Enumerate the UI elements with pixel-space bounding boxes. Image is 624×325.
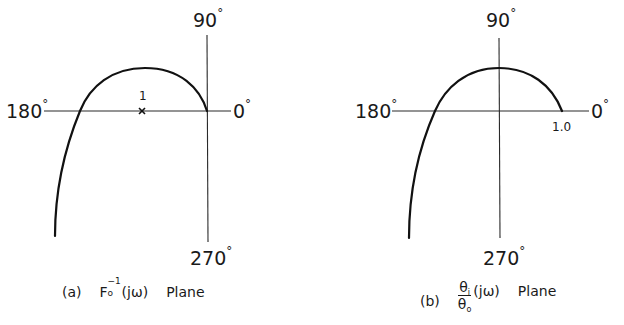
- func-arg: (jω): [473, 283, 500, 299]
- panel-b-caption-tag: (b): [420, 294, 440, 308]
- panel-a-label-180: 180°: [6, 102, 48, 121]
- panel-b-label-270: 270°: [483, 249, 525, 268]
- panel-b-point-label: 1.0: [552, 121, 571, 133]
- panel-b-caption-word: Plane: [518, 284, 556, 298]
- panel-a-label-0: 0°: [233, 102, 251, 121]
- panel-a-plot: [44, 35, 231, 242]
- degree-symbol: °: [42, 97, 48, 111]
- nyquist-figure: [0, 0, 624, 325]
- func-arg: (jω): [122, 284, 149, 300]
- label-value: 180: [6, 100, 42, 122]
- func-scripts: −1o: [108, 287, 122, 297]
- degree-symbol: °: [603, 97, 609, 111]
- label-value: 0: [233, 100, 245, 122]
- panel-a-imag-axis: [207, 35, 208, 242]
- panel-a-caption: (a)F−1o(jω)Plane: [62, 285, 205, 299]
- panel-a-caption-word: Plane: [166, 285, 204, 299]
- func-base: F: [100, 284, 108, 300]
- label-value: 0: [591, 100, 603, 122]
- fraction-numerator: θi: [458, 280, 471, 296]
- label-value: 270: [483, 247, 519, 269]
- func-sup: −1: [108, 277, 121, 286]
- label-value: 270: [190, 247, 226, 269]
- label-value: 180: [355, 100, 391, 122]
- panel-a-caption-func: F−1o(jω): [100, 284, 149, 300]
- panel-a-label-270: 270°: [190, 249, 232, 268]
- degree-symbol: °: [217, 6, 223, 20]
- num-sub: i: [468, 288, 470, 297]
- panel-b-caption-fraction: θiθo: [458, 280, 471, 311]
- panel-a-marker-label: 1: [139, 90, 147, 102]
- panel-b-label-90: 90°: [486, 11, 516, 30]
- panel-b-label-180: 180°: [355, 102, 397, 121]
- degree-symbol: °: [510, 6, 516, 20]
- panel-b-label-0: 0°: [591, 102, 609, 121]
- panel-a-locus-curve: [55, 68, 207, 236]
- degree-symbol: °: [226, 244, 232, 258]
- panel-b-plot: [392, 38, 589, 238]
- func-sub: o: [108, 289, 114, 298]
- den-sub: o: [466, 305, 471, 314]
- label-value: 90: [193, 9, 217, 31]
- degree-symbol: °: [519, 244, 525, 258]
- degree-symbol: °: [245, 97, 251, 111]
- label-value: 90: [486, 9, 510, 31]
- panel-b-locus-curve: [409, 68, 562, 238]
- panel-a-caption-tag: (a): [62, 285, 82, 299]
- fraction-denominator: θo: [458, 296, 471, 311]
- num-base: θ: [459, 279, 468, 295]
- panel-b-caption: (b)θiθo(jω)Plane: [420, 278, 556, 309]
- degree-symbol: °: [391, 97, 397, 111]
- panel-a-label-90: 90°: [193, 11, 223, 30]
